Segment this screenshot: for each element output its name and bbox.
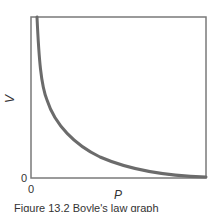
figure-caption: Figure 13.2 Boyle's law graph — [14, 202, 159, 212]
y-origin-label: 0 — [21, 172, 27, 184]
x-axis-label: P — [114, 188, 122, 202]
data-curve — [37, 17, 206, 177]
chart: V 0 0 P — [0, 0, 219, 212]
x-origin-label: 0 — [28, 183, 34, 195]
plot-frame — [31, 17, 206, 178]
y-axis-label: V — [3, 94, 17, 103]
